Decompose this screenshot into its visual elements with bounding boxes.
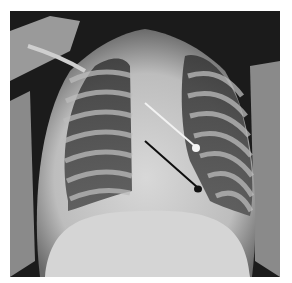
xray-graphic — [10, 11, 280, 277]
chest-xray-image — [10, 11, 280, 277]
